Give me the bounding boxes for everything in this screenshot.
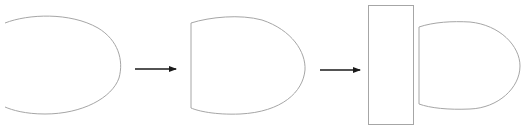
stage-3-rect-and-d-shape [369,6,521,125]
d-shape-attached [419,22,520,110]
process-diagram [0,0,521,129]
d-shape [191,17,305,114]
open-ellipse-arc-shape [5,16,121,114]
rectangle-shape [369,6,414,125]
stage-2-d-shape [191,17,305,114]
stage-1-open-arc [5,16,121,114]
